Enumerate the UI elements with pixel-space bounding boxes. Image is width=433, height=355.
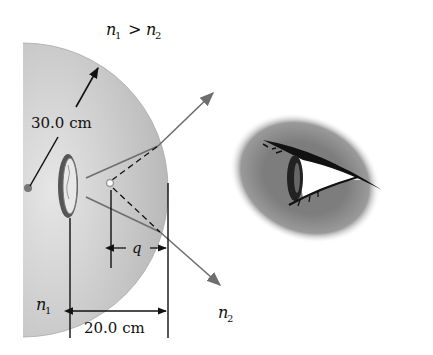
image-point — [107, 180, 114, 187]
ray-lower-outside — [160, 232, 220, 285]
eye-illustration — [208, 89, 402, 267]
svg-text:2: 2 — [155, 30, 161, 41]
refraction-diagram: q 20.0 cm 30.0 cm n 1 > n 2 n 1 n 2 — [0, 0, 433, 355]
coin — [58, 154, 78, 218]
svg-text:>: > — [128, 20, 141, 39]
n2-label: n 2 — [218, 303, 233, 324]
svg-text:1: 1 — [115, 30, 121, 41]
distance-label: 20.0 cm — [84, 319, 145, 337]
ray-upper-outside — [158, 93, 213, 146]
svg-text:1: 1 — [45, 305, 51, 316]
svg-text:2: 2 — [227, 313, 233, 324]
radius-label: 30.0 cm — [31, 114, 92, 132]
q-label: q — [132, 239, 142, 257]
index-condition-label: n 1 > n 2 — [106, 20, 161, 41]
